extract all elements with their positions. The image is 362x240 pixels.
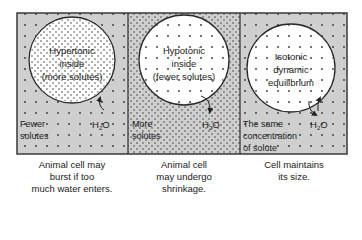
outside-label-line: solutes <box>132 131 161 141</box>
caption-isotonic: Cell maintains its size. <box>238 159 350 183</box>
caption-line: much water enters. <box>16 183 128 195</box>
cell-label-line: (more solutes) <box>42 71 103 82</box>
caption-line: shrinkage. <box>128 183 240 195</box>
outside-label-line: of solute <box>243 143 277 153</box>
outside-label-line: More <box>132 119 153 129</box>
outside-label-line: The same <box>243 119 283 129</box>
caption-line: burst if too <box>16 171 128 183</box>
caption-hypertonic: Animal cell may burst if too much water … <box>16 159 128 195</box>
cell-label-line: inside <box>172 58 197 69</box>
outside-label-line: concentration <box>243 131 297 141</box>
caption-line: Cell maintains <box>238 159 350 171</box>
cell-label-line: Hypertonic <box>49 45 95 56</box>
cell-label-line: Hypotonic <box>163 45 205 56</box>
cell-label-line: equilibrium <box>268 77 314 88</box>
caption-hypotonic: Animal cell may undergo shrinkage. <box>128 159 240 195</box>
outside-label-line: solutes <box>20 131 49 141</box>
caption-line: Animal cell may <box>16 159 128 171</box>
caption-line: Animal cell <box>128 159 240 171</box>
cell-label-line: (fewer solutes) <box>153 71 215 82</box>
outside-label-line: Fewer <box>20 119 45 129</box>
caption-line: may undergo <box>128 171 240 183</box>
cell-label-line: inside <box>60 58 85 69</box>
cell-label-line: Isotonic <box>275 51 308 62</box>
caption-line: its size. <box>238 171 350 183</box>
cell-label-line: dynamic <box>273 64 309 75</box>
